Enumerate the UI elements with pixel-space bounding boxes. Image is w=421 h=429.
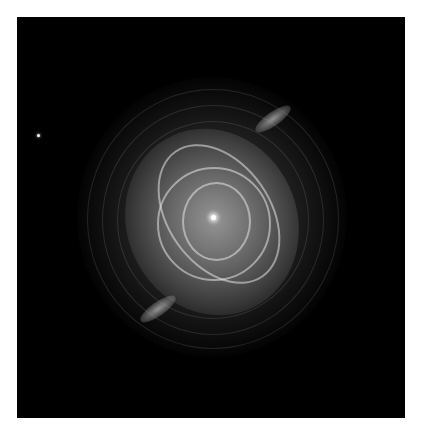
nebula-image [17,17,405,418]
inner-bubble [182,182,251,261]
background-star [37,134,40,137]
central-star [211,215,216,220]
